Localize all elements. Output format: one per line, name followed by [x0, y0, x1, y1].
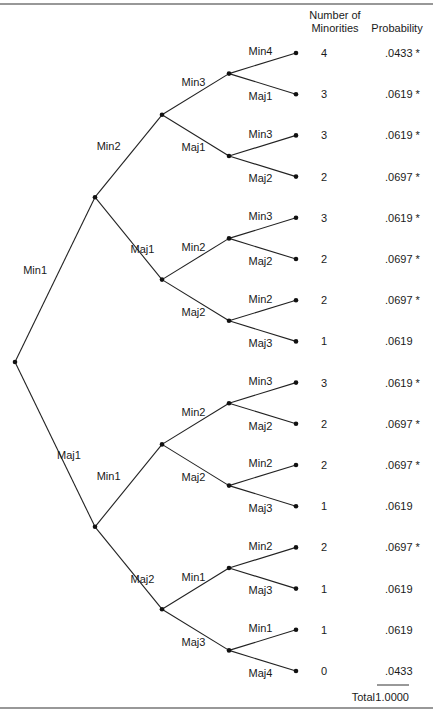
leaf-minorities: 0: [321, 665, 327, 677]
tree-branch: [95, 197, 162, 279]
tree-branch: [15, 362, 95, 527]
tree-node: [294, 339, 299, 344]
branch-label: Maj2: [249, 255, 273, 267]
tree-branch: [15, 197, 95, 362]
branch-label: Maj2: [249, 420, 273, 432]
leaf-probability: .0619: [385, 335, 413, 347]
branch-label: Min1: [182, 571, 206, 583]
branch-label: Maj4: [249, 667, 273, 679]
leaf-probability: .0697 *: [385, 294, 421, 306]
leaf-probability: .0619 *: [385, 377, 421, 389]
branch-label: Min1: [97, 470, 121, 482]
leaf-minorities: 1: [321, 500, 327, 512]
leaf-probability: .0619: [385, 624, 413, 636]
tree-node: [227, 483, 232, 488]
branch-label: Min2: [249, 457, 273, 469]
total-value: 1.0000: [375, 691, 409, 703]
branch-label: Min1: [23, 264, 47, 276]
tree-node: [294, 133, 299, 138]
tree-node: [294, 545, 299, 550]
tree-branch: [95, 527, 162, 609]
tree-node: [227, 401, 232, 406]
tree-node: [294, 380, 299, 385]
branch-label: Min4: [249, 45, 273, 57]
tree-node: [160, 277, 165, 282]
tree-node: [294, 463, 299, 468]
leaf-minorities: 3: [321, 129, 327, 141]
tree-node: [13, 360, 18, 365]
branch-label: Min3: [249, 210, 273, 222]
tree-node: [294, 669, 299, 674]
header-minorities: Minorities: [311, 22, 359, 34]
tree-node: [93, 525, 98, 530]
leaf-minorities: 1: [321, 335, 327, 347]
leaf-minorities: 4: [321, 47, 327, 59]
tree-node: [294, 422, 299, 427]
leaf-probability: .0619 *: [385, 212, 421, 224]
probability-tree-diagram: Number of Minorities Probability Min1Maj…: [0, 0, 433, 716]
leaf-minorities: 2: [321, 294, 327, 306]
tree-node: [227, 71, 232, 76]
leaf-probability: .0697 *: [385, 541, 421, 553]
tree-branch: [95, 444, 162, 526]
branch-label: Min2: [249, 540, 273, 552]
tree-node: [294, 586, 299, 591]
leaf-probability: .0697 *: [385, 253, 421, 265]
tree-node: [93, 195, 98, 200]
branch-label: Min2: [182, 406, 206, 418]
tree-node: [160, 442, 165, 447]
branch-label: Maj2: [182, 306, 206, 318]
leaf-minorities: 3: [321, 377, 327, 389]
leaf-probability: .0433 *: [385, 47, 421, 59]
leaf-minorities: 2: [321, 459, 327, 471]
leaf-probability: .0619: [385, 500, 413, 512]
branch-label: Maj3: [249, 337, 273, 349]
leaf-minorities: 3: [321, 212, 327, 224]
header-probability: Probability: [371, 22, 423, 34]
branch-label: Maj1: [249, 90, 273, 102]
tree-node: [227, 236, 232, 241]
tree-node: [160, 607, 165, 612]
leaf-probability: .0619 *: [385, 129, 421, 141]
branch-label: Maj1: [57, 449, 81, 461]
tree-node: [227, 648, 232, 653]
tree-node: [294, 174, 299, 179]
tree-node: [294, 92, 299, 97]
leaf-probability: .0697 *: [385, 171, 421, 183]
leaf-probability: .0619 *: [385, 88, 421, 100]
leaf-minorities: 3: [321, 88, 327, 100]
leaf-probability: .0697 *: [385, 459, 421, 471]
branch-label: Maj1: [131, 243, 155, 255]
leaf-minorities: 2: [321, 253, 327, 265]
total-label: Total: [352, 691, 375, 703]
branch-label: Maj2: [131, 573, 155, 585]
branch-label: Maj3: [249, 502, 273, 514]
tree-node: [160, 113, 165, 118]
branch-label: Maj2: [182, 471, 206, 483]
leaf-minorities: 2: [321, 541, 327, 553]
leaf-minorities: 1: [321, 583, 327, 595]
branch-label: Min1: [249, 622, 273, 634]
tree-node: [227, 319, 232, 324]
tree-node: [227, 154, 232, 159]
branch-label: Maj1: [182, 141, 206, 153]
tree-node: [294, 51, 299, 56]
branch-label: Min2: [249, 293, 273, 305]
leaf-probability: .0619: [385, 583, 413, 595]
tree-branch: [95, 115, 162, 197]
tree-node: [227, 566, 232, 571]
branch-label: Min2: [97, 140, 121, 152]
tree-node: [294, 257, 299, 262]
branch-label: Min3: [249, 128, 273, 140]
leaf-minorities: 1: [321, 624, 327, 636]
branch-label: Maj3: [182, 636, 206, 648]
branch-label: Maj2: [249, 172, 273, 184]
leaf-probability: .0433: [385, 665, 413, 677]
leaf-minorities: 2: [321, 418, 327, 430]
tree-node: [294, 298, 299, 303]
leaf-probability: .0697 *: [385, 418, 421, 430]
branch-label: Min3: [182, 76, 206, 88]
tree-node: [294, 504, 299, 509]
header-number-of: Number of: [309, 9, 361, 21]
tree-node: [294, 216, 299, 221]
